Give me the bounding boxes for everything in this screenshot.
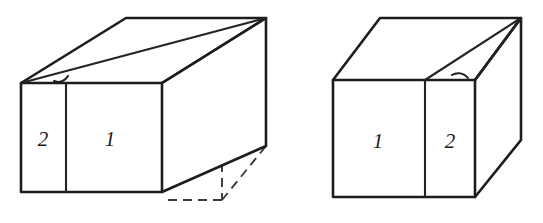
right-block: 1 2 — [333, 18, 521, 197]
left-panel-2-label: 2 — [38, 127, 49, 151]
technical-drawing-canvas: 2 1 1 2 — [0, 0, 543, 223]
left-block: 2 1 — [21, 18, 266, 200]
left-block-face-fills — [21, 18, 266, 192]
right-panel-2-label: 2 — [445, 129, 456, 153]
right-panel-1-label: 1 — [373, 129, 384, 153]
left-panel-1-label: 1 — [105, 127, 116, 151]
